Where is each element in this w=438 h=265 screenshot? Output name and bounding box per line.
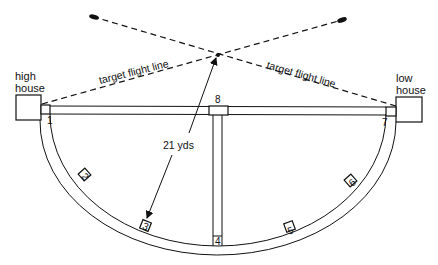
low-house-label-line2: house bbox=[396, 84, 426, 96]
crossing-point-icon bbox=[216, 53, 220, 57]
walkway-inner-arc bbox=[50, 114, 386, 246]
target-left-icon bbox=[89, 13, 100, 20]
distance-arrow-upper bbox=[189, 58, 216, 133]
stations bbox=[41, 105, 396, 232]
station-4-label: 4 bbox=[215, 236, 221, 247]
station-7-label: 7 bbox=[382, 117, 388, 128]
station-1-label: 1 bbox=[47, 115, 53, 126]
skeet-field-diagram: target flight line target flight line hi… bbox=[0, 0, 438, 265]
station-8-label: 8 bbox=[215, 94, 221, 105]
distance-label: 21 yds bbox=[163, 139, 194, 151]
target-right-icon bbox=[337, 16, 348, 24]
station-8-pad bbox=[209, 106, 228, 115]
low-house bbox=[396, 97, 422, 122]
high-house-label-line1: high bbox=[15, 70, 36, 82]
high-house-label-line2: house bbox=[15, 82, 45, 94]
low-house-label-line1: low bbox=[396, 72, 413, 84]
station-7-pad bbox=[386, 107, 396, 116]
walkway-outer-arc bbox=[40, 120, 396, 255]
center-path bbox=[213, 115, 222, 246]
flight-line-low-house bbox=[94, 17, 396, 106]
flight-line-label-right: target flight line bbox=[265, 58, 337, 89]
distance-arrow-lower bbox=[147, 155, 172, 218]
high-house bbox=[16, 95, 41, 120]
station-walkway bbox=[40, 114, 396, 255]
flight-line-high-house bbox=[42, 20, 342, 104]
flight-lines bbox=[42, 17, 396, 106]
station-1-pad bbox=[41, 105, 50, 114]
